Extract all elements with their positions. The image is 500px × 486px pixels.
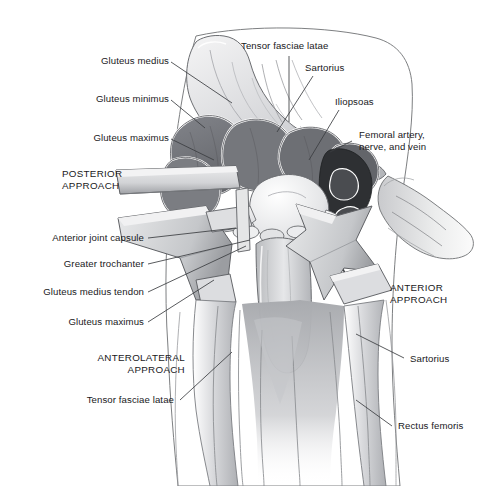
label-anterior-joint-capsule: Anterior joint capsule [8,232,144,244]
label-tensor-fasciae-latae-bottom: Tensor fasciae latae [38,394,174,406]
thigh-muscles [175,300,396,486]
label-gluteus-medius-tendon: Gluteus medius tendon [8,286,144,298]
label-greater-trochanter: Greater trochanter [8,258,144,270]
label-rectus-femoris: Rectus femoris [398,420,463,432]
approach-label-anterior: ANTERIOR APPROACH [390,282,447,306]
label-sartorius-top: Sartorius [305,62,344,74]
illustration-body [116,28,473,486]
label-gluteus-maximus-upper: Gluteus maximus [24,132,169,144]
approach-label-anterolateral: ANTEROLATERAL APPROACH [55,352,185,376]
label-gluteus-maximus-lower: Gluteus maximus [8,316,144,328]
label-gluteus-minimus: Gluteus minimus [24,93,169,105]
figure-canvas: Gluteus medius Gluteus minimus Gluteus m… [0,0,500,486]
label-iliopsoas: Iliopsoas [335,96,374,108]
label-sartorius-lower: Sartorius [410,353,449,365]
approach-label-posterior: POSTERIOR APPROACH [62,168,122,192]
label-gluteus-medius: Gluteus medius [24,55,169,67]
label-tensor-fasciae-latae-top: Tensor fasciae latae [241,40,328,52]
label-femoral-neurovascular-bundle: Femoral artery, nerve, and vein [359,129,426,152]
